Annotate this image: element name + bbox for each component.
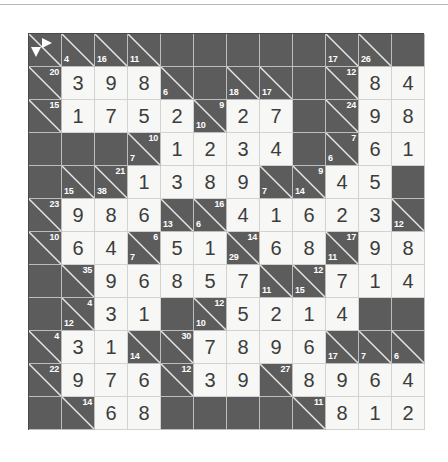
answer-cell[interactable]: 5: [161, 232, 194, 265]
clue-cell: 67: [128, 232, 161, 265]
clue-cell: 17: [326, 34, 359, 67]
answer-digit: 1: [72, 105, 83, 128]
down-clue-number: 17: [328, 54, 337, 65]
answer-cell[interactable]: 4: [95, 232, 128, 265]
answer-cell[interactable]: 6: [359, 364, 392, 397]
answer-cell[interactable]: 1: [359, 265, 392, 298]
answer-cell[interactable]: 7: [95, 364, 128, 397]
answer-cell[interactable]: 4: [392, 364, 425, 397]
answer-cell[interactable]: 2: [260, 298, 293, 331]
answer-cell[interactable]: 8: [194, 166, 227, 199]
answer-cell[interactable]: 1: [95, 331, 128, 364]
blocked-cell: [161, 34, 194, 67]
answer-cell[interactable]: 8: [392, 232, 425, 265]
answer-cell[interactable]: 4: [227, 199, 260, 232]
answer-cell[interactable]: 1: [293, 298, 326, 331]
answer-cell[interactable]: 1: [62, 100, 95, 133]
clue-cell: 30: [161, 331, 194, 364]
answer-cell[interactable]: 3: [227, 133, 260, 166]
answer-cell[interactable]: 3: [194, 364, 227, 397]
answer-cell[interactable]: 8: [293, 232, 326, 265]
answer-cell[interactable]: 8: [293, 364, 326, 397]
answer-cell[interactable]: 2: [161, 100, 194, 133]
answer-cell[interactable]: 3: [62, 67, 95, 100]
answer-cell[interactable]: 6: [95, 397, 128, 430]
answer-cell[interactable]: 2: [227, 100, 260, 133]
answer-cell[interactable]: 4: [392, 67, 425, 100]
down-arrow-icon: [31, 47, 41, 57]
blocked-cell: [392, 166, 425, 199]
answer-cell[interactable]: 6: [260, 232, 293, 265]
answer-cell[interactable]: 9: [260, 331, 293, 364]
answer-cell[interactable]: 7: [95, 100, 128, 133]
answer-cell[interactable]: 4: [326, 166, 359, 199]
answer-cell[interactable]: 4: [326, 298, 359, 331]
answer-cell[interactable]: 9: [62, 364, 95, 397]
answer-cell[interactable]: 3: [359, 199, 392, 232]
across-clue-number: 12: [182, 364, 191, 375]
answer-cell[interactable]: 7: [326, 265, 359, 298]
answer-cell[interactable]: 4: [260, 133, 293, 166]
answer-cell[interactable]: 5: [227, 298, 260, 331]
answer-digit: 1: [303, 303, 314, 326]
answer-cell[interactable]: 8: [326, 397, 359, 430]
legend-corner-cell: [29, 34, 62, 67]
answer-cell[interactable]: 8: [128, 67, 161, 100]
answer-cell[interactable]: 5: [128, 100, 161, 133]
answer-digit: 4: [402, 270, 413, 293]
answer-cell[interactable]: 9: [326, 364, 359, 397]
blocked-cell: [260, 397, 293, 430]
across-clue-number: 9: [318, 166, 323, 177]
answer-cell[interactable]: 3: [62, 331, 95, 364]
answer-cell[interactable]: 9: [95, 67, 128, 100]
answer-cell[interactable]: 9: [227, 364, 260, 397]
answer-cell[interactable]: 8: [359, 67, 392, 100]
answer-cell[interactable]: 9: [359, 100, 392, 133]
answer-cell[interactable]: 1: [194, 232, 227, 265]
across-clue-number: 7: [351, 133, 356, 144]
answer-digit: 1: [369, 402, 380, 425]
answer-cell[interactable]: 8: [128, 397, 161, 430]
answer-cell[interactable]: 3: [161, 166, 194, 199]
answer-cell[interactable]: 1: [260, 199, 293, 232]
answer-cell[interactable]: 6: [293, 199, 326, 232]
answer-cell[interactable]: 3: [95, 298, 128, 331]
answer-digit: 6: [72, 237, 83, 260]
answer-cell[interactable]: 1: [128, 298, 161, 331]
down-clue-number: 11: [130, 54, 139, 65]
answer-cell[interactable]: 9: [95, 265, 128, 298]
answer-cell[interactable]: 7: [227, 265, 260, 298]
answer-cell[interactable]: 1: [161, 133, 194, 166]
answer-cell[interactable]: 1: [128, 166, 161, 199]
answer-cell[interactable]: 5: [359, 166, 392, 199]
answer-digit: 9: [270, 336, 281, 359]
answer-cell[interactable]: 6: [62, 232, 95, 265]
answer-cell[interactable]: 2: [392, 397, 425, 430]
answer-cell[interactable]: 6: [293, 331, 326, 364]
answer-cell[interactable]: 9: [359, 232, 392, 265]
answer-cell[interactable]: 2: [326, 199, 359, 232]
kakuro-grid[interactable]: 4161117262039861817128415175291027249810…: [29, 34, 425, 431]
down-clue-number: 11: [262, 285, 271, 296]
answer-cell[interactable]: 6: [359, 133, 392, 166]
across-clue-number: 14: [83, 397, 92, 408]
answer-cell[interactable]: 5: [194, 265, 227, 298]
across-clue-number: 21: [116, 166, 125, 177]
answer-digit: 5: [369, 171, 380, 194]
answer-cell[interactable]: 8: [227, 331, 260, 364]
down-clue-number: 10: [196, 318, 205, 329]
answer-cell[interactable]: 1: [359, 397, 392, 430]
answer-cell[interactable]: 8: [392, 100, 425, 133]
answer-cell[interactable]: 1: [392, 133, 425, 166]
answer-cell[interactable]: 6: [128, 199, 161, 232]
answer-cell[interactable]: 7: [194, 331, 227, 364]
answer-cell[interactable]: 6: [128, 265, 161, 298]
answer-cell[interactable]: 6: [128, 364, 161, 397]
answer-cell[interactable]: 8: [95, 199, 128, 232]
answer-cell[interactable]: 2: [194, 133, 227, 166]
answer-cell[interactable]: 8: [161, 265, 194, 298]
answer-cell[interactable]: 9: [227, 166, 260, 199]
answer-cell[interactable]: 9: [62, 199, 95, 232]
answer-cell[interactable]: 7: [260, 100, 293, 133]
answer-cell[interactable]: 4: [392, 265, 425, 298]
